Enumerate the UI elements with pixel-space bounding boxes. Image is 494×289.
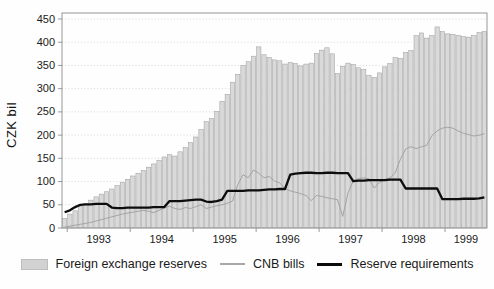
chart-area: 0501001502002503003504004501993199419951… [0, 0, 494, 252]
svg-text:1998: 1998 [401, 233, 425, 245]
svg-text:350: 350 [37, 59, 55, 71]
bar-swatch-icon [21, 259, 48, 270]
svg-text:1996: 1996 [275, 233, 299, 245]
svg-text:1993: 1993 [86, 233, 110, 245]
thick-line-swatch-icon [317, 263, 342, 266]
legend-label: CNB bills [253, 257, 304, 271]
svg-text:50: 50 [43, 198, 55, 210]
thin-line-swatch-icon [220, 263, 245, 265]
legend-label: Foreign exchange reserves [56, 257, 207, 271]
svg-text:150: 150 [37, 152, 55, 164]
svg-text:300: 300 [37, 82, 55, 94]
svg-text:200: 200 [37, 129, 55, 141]
x-axis-ticks: 1993199419951996199719981999 [67, 228, 478, 245]
legend-label: Reserve requirements [350, 257, 473, 271]
svg-text:1999: 1999 [454, 233, 478, 245]
legend-item-reserve-requirements: Reserve requirements [317, 257, 473, 271]
chart-plot: 0501001502002503003504004501993199419951… [0, 0, 494, 252]
legend-item-foreign-exchange-reserves: Foreign exchange reserves [21, 257, 207, 271]
svg-text:450: 450 [37, 13, 55, 25]
svg-text:0: 0 [49, 222, 55, 234]
legend: Foreign exchange reserves CNB bills Rese… [0, 257, 494, 271]
svg-text:100: 100 [37, 175, 55, 187]
fx-reserves-bars [62, 27, 486, 228]
fx-reserves-figure: 0501001502002503003504004501993199419951… [0, 0, 494, 289]
y-axis-ticks: 050100150200250300350400450 [37, 13, 62, 234]
legend-item-cnb-bills: CNB bills [220, 257, 304, 271]
y-axis-title: CZK bil [4, 60, 20, 190]
svg-text:1995: 1995 [212, 233, 236, 245]
svg-text:250: 250 [37, 105, 55, 117]
svg-text:1997: 1997 [338, 233, 362, 245]
svg-text:1994: 1994 [149, 233, 173, 245]
svg-text:400: 400 [37, 36, 55, 48]
